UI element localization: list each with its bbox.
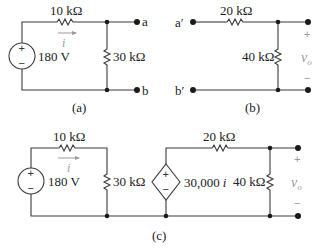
resistor-10k-icon xyxy=(55,19,75,25)
output-terminal-top xyxy=(305,19,311,25)
junction-node xyxy=(105,20,110,25)
resistor-10k-label: 10 kΩ xyxy=(53,129,85,144)
resistor-20k-icon xyxy=(225,19,245,25)
terminal-a-prime-label: a′ xyxy=(175,15,184,30)
terminal-b-prime xyxy=(190,87,196,93)
source-minus-sign: − xyxy=(19,57,25,69)
resistor-30k-icon xyxy=(104,47,110,67)
terminal-b-prime-label: b′ xyxy=(175,83,185,98)
source-minus-sign: − xyxy=(28,182,34,194)
output-terminal-top xyxy=(295,145,301,151)
resistor-20k-icon xyxy=(210,145,230,151)
current-label: i xyxy=(62,36,65,50)
terminal-b-label: b xyxy=(142,83,149,98)
resistor-20k-label: 20 kΩ xyxy=(220,3,252,18)
dep-source-plus-sign: + xyxy=(163,168,169,180)
junction-node xyxy=(105,214,110,219)
terminal-a xyxy=(134,19,140,25)
source-value-label: 180 V xyxy=(38,49,71,64)
dep-source-value-label: 30,000i xyxy=(184,175,227,190)
junction-node xyxy=(268,146,273,151)
arrowhead-icon xyxy=(75,156,80,160)
vo-label: vo xyxy=(291,175,302,192)
panel-a: 10 kΩ i + − 180 V 30 kΩ a b (a) xyxy=(9,3,149,115)
dep-source-minus-sign: − xyxy=(163,183,169,195)
output-terminal-bottom xyxy=(305,87,311,93)
junction-node xyxy=(268,214,273,219)
panel-c-caption: (c) xyxy=(152,228,166,243)
source-value-label: 180 V xyxy=(48,174,81,189)
resistor-30k-label: 30 kΩ xyxy=(113,174,145,189)
vo-label: vo xyxy=(301,50,312,67)
wire-c-dep-top xyxy=(166,148,210,164)
vo-plus-sign: + xyxy=(294,153,300,165)
terminal-a-prime xyxy=(190,19,196,25)
resistor-40k-label: 40 kΩ xyxy=(242,49,274,64)
panel-b-caption: (b) xyxy=(245,100,260,115)
junction-node xyxy=(105,88,110,93)
current-label: i xyxy=(67,161,70,175)
wire-c-top-left xyxy=(31,148,57,168)
terminal-b xyxy=(134,87,140,93)
terminal-a-label: a xyxy=(142,14,148,29)
resistor-10k-icon xyxy=(57,145,79,151)
resistor-40k-icon xyxy=(275,47,281,67)
junction-node xyxy=(164,214,169,219)
circuit-figure: 10 kΩ i + − 180 V 30 kΩ a b (a) a′ b′ xyxy=(0,0,320,250)
source-plus-sign: + xyxy=(28,167,34,179)
arrowhead-icon xyxy=(72,31,77,35)
resistor-30k-label: 30 kΩ xyxy=(113,49,145,64)
panel-a-caption: (a) xyxy=(72,100,86,115)
wire-a-bottom xyxy=(22,69,137,90)
resistor-30k-icon xyxy=(104,172,110,192)
wire-c-top-mid xyxy=(79,148,107,172)
vo-minus-sign: − xyxy=(294,197,300,209)
resistor-40k-icon xyxy=(267,172,273,192)
vo-plus-sign: + xyxy=(304,28,310,40)
resistor-10k-label: 10 kΩ xyxy=(50,3,82,18)
source-plus-sign: + xyxy=(19,42,25,54)
junction-node xyxy=(276,20,281,25)
output-terminal-bottom xyxy=(295,213,301,219)
junction-node xyxy=(276,88,281,93)
resistor-20k-label: 20 kΩ xyxy=(203,129,235,144)
panel-c: 10 kΩ i + − 180 V 30 kΩ + − 30,000i 20 k… xyxy=(18,129,302,243)
wire-a-top-left xyxy=(22,22,55,43)
panel-b: a′ b′ 20 kΩ 40 kΩ + vo − (b) xyxy=(175,3,312,115)
vo-minus-sign: − xyxy=(304,72,310,84)
resistor-40k-label: 40 kΩ xyxy=(233,174,265,189)
